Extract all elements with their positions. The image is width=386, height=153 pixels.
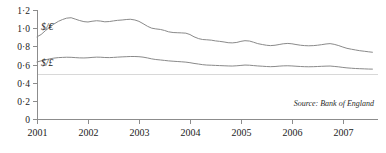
y-tick-label-5: 1·0 [17,24,30,34]
x-tick-label-3: 2004 [181,127,201,138]
series-line-usd-gbp [37,57,372,70]
series-line-usd-eur [37,18,372,53]
x-tick-label-2: 2003 [130,127,150,138]
x-tick-label-0: 2001 [28,127,48,138]
exchange-rate-chart: 00·20·40·60·81·01·2 20012002200320042005… [0,0,386,153]
series-label-usd-gbp: $/£ [41,58,53,68]
x-tick-label-4: 2005 [232,127,252,138]
x-axis: 2001200220032004200520062007 [28,120,379,139]
series-label-usd-eur: $/€ [41,22,54,32]
x-tick-group: 2001200220032004200520062007 [28,120,354,139]
y-axis: 00·20·40·60·81·01·2 [17,6,37,125]
chart-plot-area: 00·20·40·60·81·01·2 20012002200320042005… [0,0,386,153]
y-tick-label-4: 0·8 [17,42,30,52]
y-tick-label-3: 0·6 [17,61,30,71]
x-tick-label-1: 2002 [79,127,99,138]
x-tick-label-5: 2006 [283,127,303,138]
y-tick-label-6: 1·2 [17,6,30,16]
x-tick-label-6: 2007 [334,127,354,138]
series-line-group [37,18,372,69]
y-tick-label-1: 0·2 [17,97,30,107]
y-tick-group: 00·20·40·60·81·01·2 [17,6,37,125]
source-attribution: Source: Bank of England [294,99,375,108]
series-label-group: $/€$/£ [41,22,54,68]
y-tick-label-0: 0 [25,115,30,125]
y-tick-label-2: 0·4 [17,79,30,89]
